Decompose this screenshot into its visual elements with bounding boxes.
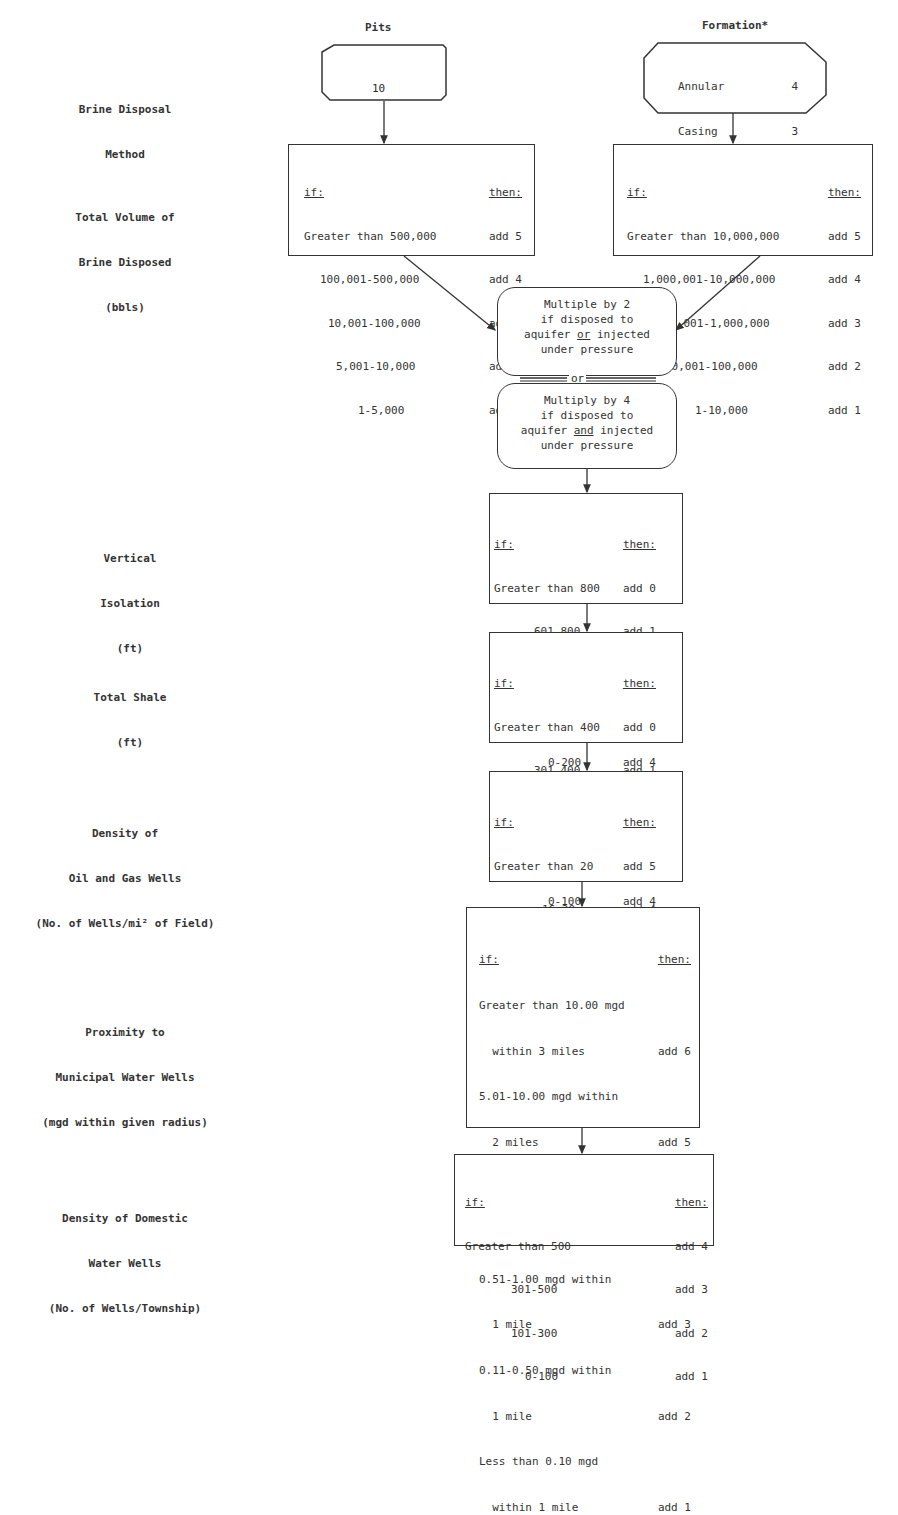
rule-action: add 5 bbox=[489, 230, 522, 245]
row-label-total-volume: Total Volume of Brine Disposed (bbls) bbox=[40, 180, 210, 330]
rule-condition: within 3 miles bbox=[479, 1044, 585, 1059]
rule-action: add 1 bbox=[828, 404, 861, 419]
item-value: 4 bbox=[791, 79, 798, 94]
multiplier-line: under pressure bbox=[498, 438, 676, 453]
rule-row: within 1 mileadd 1 bbox=[479, 1500, 691, 1515]
rule-condition: Greater than 800 bbox=[494, 582, 600, 597]
rule-action: add 5 bbox=[658, 1135, 691, 1150]
label-line: Density of Domestic bbox=[15, 1211, 235, 1226]
then-header: then: bbox=[489, 186, 522, 201]
multiplier-line: if disposed to bbox=[498, 312, 676, 327]
rule-condition: Less than 0.10 mgd bbox=[479, 1454, 691, 1469]
rule-condition: 5.01-10.00 mgd within bbox=[479, 1089, 691, 1104]
rule-row: 2 milesadd 5 bbox=[479, 1135, 691, 1150]
label-line: (ft) bbox=[60, 641, 200, 656]
item-value: 3 bbox=[791, 124, 798, 139]
emphasis-or: or bbox=[577, 328, 590, 341]
label-line: (No. of Wells/Township) bbox=[15, 1301, 235, 1316]
rule-condition: 5,001-10,000 bbox=[304, 360, 415, 375]
if-header: if: bbox=[479, 952, 499, 967]
then-header: then: bbox=[828, 186, 861, 201]
text: injected bbox=[600, 424, 653, 437]
rule-row: Greater than 400add 0 bbox=[494, 721, 670, 736]
rule-condition: Greater than 500 bbox=[465, 1240, 571, 1255]
multiplier-line: aquifer and injected bbox=[498, 423, 676, 438]
label-line: Brine Disposal bbox=[40, 102, 210, 117]
multiplier-line: under pressure bbox=[498, 342, 676, 357]
rule-condition: 2 miles bbox=[479, 1135, 539, 1150]
if-header: if: bbox=[494, 538, 514, 553]
if-header: if: bbox=[304, 186, 324, 201]
rule-condition: 101-300 bbox=[465, 1327, 557, 1342]
rule-condition: Greater than 10.00 mgd bbox=[479, 998, 691, 1013]
rule-action: add 0 bbox=[623, 721, 656, 736]
label-line: Density of bbox=[15, 826, 235, 841]
label-line: Vertical bbox=[60, 551, 200, 566]
rule-condition: within 1 mile bbox=[479, 1500, 578, 1515]
rule-row: Greater than 800add 0 bbox=[494, 582, 670, 597]
label-line: Method bbox=[40, 147, 210, 162]
formation-method-item: Annular4 bbox=[678, 79, 798, 94]
rule-action: add 3 bbox=[828, 317, 861, 332]
label-line: Total Shale bbox=[60, 690, 200, 705]
rule-row: 0-100add 1 bbox=[465, 1370, 708, 1385]
rule-condition: 100,001-500,000 bbox=[304, 273, 419, 288]
rule-action: add 2 bbox=[658, 1409, 691, 1424]
rule-action: add 4 bbox=[828, 273, 861, 288]
rule-action: add 5 bbox=[828, 230, 861, 245]
rule-action: add 5 bbox=[623, 860, 656, 875]
rule-row: 301-500add 3 bbox=[465, 1283, 708, 1298]
label-line: Isolation bbox=[60, 596, 200, 611]
column-header-formation: Formation* bbox=[702, 19, 768, 32]
rule-row: 1 mileadd 2 bbox=[479, 1409, 691, 1424]
text: aquifer bbox=[524, 328, 570, 341]
row-label-vertical-isolation: Vertical Isolation (ft) bbox=[60, 521, 200, 671]
rule-row: Greater than 500add 4 bbox=[465, 1240, 708, 1255]
rule-row: Greater than 20add 5 bbox=[494, 860, 670, 875]
rule-row: 5,001-10,000add 2 bbox=[304, 360, 522, 375]
rule-condition: 1 mile bbox=[479, 1409, 532, 1424]
text: aquifer bbox=[521, 424, 567, 437]
label-line: Total Volume of bbox=[40, 210, 210, 225]
rule-action: add 1 bbox=[658, 1500, 691, 1515]
rule-condition: 301-500 bbox=[465, 1283, 557, 1298]
rule-condition: Greater than 10,000,000 bbox=[627, 230, 779, 245]
if-header: if: bbox=[494, 677, 514, 692]
rule-row: Greater than 10,000,000add 5 bbox=[627, 230, 861, 245]
rule-condition: 1-5,000 bbox=[304, 404, 404, 419]
then-header: then: bbox=[623, 538, 656, 553]
row-label-proximity-municipal: Proximity to Municipal Water Wells (mgd … bbox=[15, 995, 235, 1145]
row-label-total-shale: Total Shale (ft) bbox=[60, 660, 200, 765]
multiplier-line: Multiply by 4 bbox=[498, 393, 676, 408]
column-header-pits: Pits bbox=[365, 21, 392, 34]
pits-method-value: 10 bbox=[372, 82, 385, 95]
formation-method-item: Casing3 bbox=[678, 124, 798, 139]
rule-condition: Greater than 20 bbox=[494, 860, 593, 875]
label-line: (ft) bbox=[60, 735, 200, 750]
rule-action: add 0 bbox=[623, 582, 656, 597]
row-label-density-oil-gas: Density of Oil and Gas Wells (No. of Wel… bbox=[15, 796, 235, 946]
then-header: then: bbox=[623, 677, 656, 692]
rule-row: within 3 milesadd 6 bbox=[479, 1044, 691, 1059]
rule-condition: Greater than 500,000 bbox=[304, 230, 436, 245]
if-header: if: bbox=[465, 1196, 485, 1211]
emphasis-and: and bbox=[574, 424, 594, 437]
multiply-by-2-box: Multiple by 2 if disposed to aquifer or … bbox=[497, 287, 677, 376]
row-label-density-domestic: Density of Domestic Water Wells (No. of … bbox=[15, 1181, 235, 1331]
label-line: Water Wells bbox=[15, 1256, 235, 1271]
then-header: then: bbox=[623, 816, 656, 831]
then-header: then: bbox=[658, 952, 691, 967]
rule-row: 100,001-500,000add 4 bbox=[304, 273, 522, 288]
label-line: Brine Disposed bbox=[40, 255, 210, 270]
text: injected bbox=[597, 328, 650, 341]
multiply-by-4-box: Multiply by 4 if disposed to aquifer and… bbox=[497, 383, 677, 469]
multiplier-line: aquifer or injected bbox=[498, 327, 676, 342]
rule-condition: 0-100 bbox=[465, 1370, 558, 1385]
rule-action: add 1 bbox=[675, 1370, 708, 1385]
rule-row: 1-5,000add 1 bbox=[304, 404, 522, 419]
rule-action: add 3 bbox=[675, 1283, 708, 1298]
label-line: (No. of Wells/mi² of Field) bbox=[15, 916, 235, 931]
label-line: (mgd within given radius) bbox=[15, 1115, 235, 1130]
rule-action: add 4 bbox=[489, 273, 522, 288]
label-line: Oil and Gas Wells bbox=[15, 871, 235, 886]
